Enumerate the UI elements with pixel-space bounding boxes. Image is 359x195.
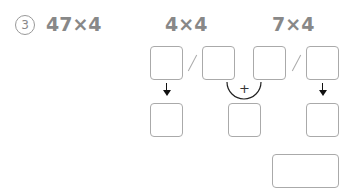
- partial-expression-left: 4×4: [165, 13, 207, 35]
- final-answer-box[interactable]: [272, 154, 339, 188]
- plus-sign: +: [239, 82, 250, 95]
- answer-box-ones-left[interactable]: [202, 46, 235, 80]
- answer-box-ones-right[interactable]: [306, 46, 339, 80]
- result-box-hundreds[interactable]: [150, 103, 183, 137]
- down-arrow-icon: [163, 90, 171, 96]
- partial-expression-right: 7×4: [272, 13, 314, 35]
- slash-divider: [188, 55, 197, 71]
- answer-box-tens-right[interactable]: [253, 46, 286, 80]
- slash-divider: [292, 55, 301, 71]
- result-box-ones[interactable]: [306, 103, 339, 137]
- down-arrow-icon: [319, 90, 327, 96]
- answer-box-tens-left[interactable]: [150, 46, 183, 80]
- problem-expression: 47×4: [46, 13, 102, 35]
- result-box-tens[interactable]: [228, 103, 261, 137]
- problem-number-badge: 3: [15, 15, 35, 35]
